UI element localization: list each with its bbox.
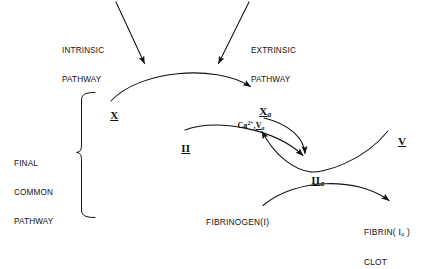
factor-ii-node: II [169, 129, 190, 168]
fibrin-clot-node: FIBRIN( Ia ) CLOT [364, 207, 410, 269]
factor-iia-subscript: a [320, 179, 324, 188]
factor-iia-numeral: II [311, 174, 320, 186]
final-common-pathway-line3: PATHWAY [14, 217, 53, 227]
final-common-pathway-line2: COMMON [14, 188, 53, 198]
final-common-pathway-label: FINAL COMMON PATHWAY [14, 140, 53, 246]
factor-v-numeral: V [398, 135, 406, 147]
intrinsic-pathway-line2: PATHWAY [62, 75, 104, 85]
fibrin-close-paren: ) [404, 227, 410, 237]
factor-xa-subscript: a [267, 110, 271, 119]
cofactor-calcium-charge: 2+ [247, 120, 253, 126]
extrinsic-pathway-line1: EXTRINSIC [251, 46, 296, 56]
intrinsic-input-arrow [116, 2, 145, 64]
final-common-pathway-line1: FINAL [14, 159, 53, 169]
fibrinogen-to-fibrin-arrow [263, 184, 389, 206]
fibrin-clot-line2: CLOT [364, 258, 410, 268]
x-to-xa-arrow [111, 73, 251, 101]
factor-x-numeral: X [110, 109, 118, 121]
fibrinogen-close-paren: ) [266, 217, 269, 227]
final-common-pathway-brace [77, 93, 96, 218]
cofactor-va-subscript: a [262, 125, 265, 131]
intrinsic-pathway-label: INTRINSIC PATHWAY [62, 27, 104, 104]
extrinsic-input-arrow [219, 2, 250, 64]
fibrinogen-name: FIBRINOGEN [206, 217, 260, 227]
factor-x-node: X [98, 96, 118, 135]
cofactor-calcium: Ca [237, 121, 247, 130]
extrinsic-pathway-line2: PATHWAY [251, 75, 296, 85]
fibrin-clot-line1: FIBRIN( Ia ) [364, 227, 410, 238]
factor-iia-node: IIa [299, 161, 324, 200]
cofactor-va-numeral: V [256, 121, 262, 130]
cofactor-complex-node: Ca2+,Va [229, 112, 265, 140]
fibrinogen-node: FIBRINOGEN(I) [196, 207, 269, 238]
fibrin-subscript: a [401, 231, 404, 237]
factor-v-node: V [386, 122, 406, 161]
factor-ii-numeral: II [181, 142, 190, 154]
intrinsic-pathway-line1: INTRINSIC [62, 46, 104, 56]
fibrin-name: FIBRIN [364, 227, 393, 237]
